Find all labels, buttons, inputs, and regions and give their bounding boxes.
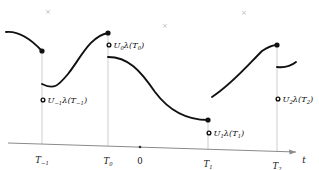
open-circle-u-2 [276,97,280,101]
axis-tick-labels: T−1 T0 0 T1 T2 t [35,155,306,170]
open-circle-u-1 [207,131,211,135]
left-limit-dot-t-minus-1 [39,48,44,53]
value-label-u-0: U0λ(T0) [114,40,145,51]
path-segments [6,32,296,120]
tick-label-t-2: T2 [272,161,282,170]
axis-line [8,143,296,152]
axis-label-t: t [302,155,306,165]
segment-after-t-2 [277,62,296,67]
value-label-u-minus-1: U−1λ(T−1) [48,95,88,106]
tick-label-t-1: T1 [203,159,212,170]
figure-canvas: U−1λ(T−1) U0λ(T0) U1λ(T1) U2λ(T2) T−1 T0… [0,0,319,170]
left-limit-dot-t-2 [274,42,279,47]
segment-before-t-minus-1 [6,32,42,51]
value-markers [41,43,280,135]
tick-label-t-minus-1: T−1 [35,155,49,166]
time-axis [8,143,296,154]
path-diagram-svg: U−1λ(T−1) U0λ(T0) U1λ(T1) U2λ(T2) T−1 T0… [0,0,319,170]
left-limit-dots [39,30,279,122]
origin-dot [139,146,142,149]
segment-t-0-to-t-1 [108,57,208,120]
tick-label-origin: 0 [137,156,142,166]
segment-t-1-to-t-2 [212,45,277,97]
artifact-mark-3: × [241,9,247,17]
open-circle-u-minus-1 [41,98,45,102]
value-label-u-2: U2λ(T2) [283,94,314,105]
axis-arrowhead [289,149,296,154]
left-limit-dot-t-1 [205,117,210,122]
artifact-mark-2: × [162,22,168,30]
left-limit-dot-t-0 [105,30,110,35]
value-label-u-1: U1λ(T1) [214,128,245,139]
open-circle-u-0 [107,43,111,47]
value-labels: U−1λ(T−1) U0λ(T0) U1λ(T1) U2λ(T2) [48,40,314,139]
segment-t-minus-1-to-t-0 [42,33,108,87]
tick-label-t-0: T0 [103,156,113,167]
artifact-mark-1: × [45,8,51,16]
scan-artifacts: × × × [45,8,247,30]
